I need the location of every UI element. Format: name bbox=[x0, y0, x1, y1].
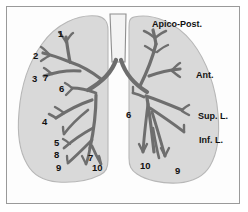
label-apico-posterior: Apico-Post. bbox=[152, 20, 202, 29]
segment-label-10-left: 10 bbox=[92, 163, 103, 173]
segment-label-9-right: 9 bbox=[175, 166, 180, 176]
lung-anatomy-illustration bbox=[0, 0, 248, 212]
trachea-shape bbox=[110, 14, 126, 62]
segment-label-8: 8 bbox=[54, 150, 59, 160]
left-seg-9-basal-b bbox=[67, 156, 68, 163]
left-seg-5-medial-b bbox=[63, 127, 64, 134]
right-lung-shape bbox=[129, 16, 219, 183]
segment-label-2: 2 bbox=[33, 51, 38, 61]
segment-label-10-right: 10 bbox=[140, 161, 151, 171]
segment-label-3: 3 bbox=[32, 74, 37, 84]
segment-label-7-upper: 7 bbox=[43, 73, 48, 83]
label-inferior-lingula: Inf. L. bbox=[199, 136, 223, 145]
trachea bbox=[110, 14, 126, 62]
label-superior-lingula: Sup. L. bbox=[198, 112, 228, 121]
segment-label-1: 1 bbox=[58, 29, 63, 39]
segment-label-5: 5 bbox=[54, 138, 59, 148]
segment-label-6-right: 6 bbox=[126, 110, 131, 120]
segment-label-6-left: 6 bbox=[59, 84, 64, 94]
segment-label-9-left: 9 bbox=[56, 163, 61, 173]
label-anterior: Ant. bbox=[196, 71, 214, 80]
lung-segment-figure: 1 2 3 7 6 4 5 8 9 7 10 6 10 9 Apico-Post… bbox=[0, 0, 248, 212]
segment-label-4: 4 bbox=[42, 117, 47, 127]
